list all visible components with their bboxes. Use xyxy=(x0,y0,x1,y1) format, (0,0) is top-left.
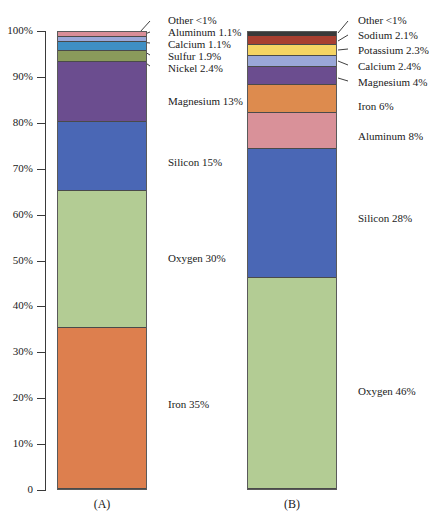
bar-segment-iron xyxy=(58,328,146,489)
segment-annotation: Aluminum 8% xyxy=(358,131,423,142)
y-axis-tick-label: 90% xyxy=(13,71,33,82)
bar-segment-sodium xyxy=(248,36,336,46)
segment-annotation: Calcium 1.1% xyxy=(168,39,231,50)
y-axis-tick-label: 60% xyxy=(13,209,33,220)
y-axis-tick-label: 20% xyxy=(13,392,33,403)
bar-segment-aluminum xyxy=(58,32,146,37)
bar-segment-sulfur xyxy=(58,42,146,51)
segment-annotation: Silicon 15% xyxy=(168,157,222,168)
bar-segment-other xyxy=(248,31,336,35)
segment-annotation: Nickel 2.4% xyxy=(168,63,223,74)
bar-segment-nickel xyxy=(58,51,146,62)
y-axis-tick xyxy=(37,169,45,170)
y-axis-tick-label: 30% xyxy=(13,346,33,357)
bar-segment-magnesium xyxy=(58,62,146,122)
y-axis-tick-label: 70% xyxy=(13,163,33,174)
y-axis-tick xyxy=(37,490,45,491)
bar-segment-silicon xyxy=(58,122,146,191)
y-axis-tick-label: 100% xyxy=(7,25,33,36)
y-axis-tick xyxy=(37,123,45,124)
segment-annotation: Magnesium 4% xyxy=(358,77,427,88)
panel-label-a: (A) xyxy=(72,497,132,512)
y-axis-tick xyxy=(37,31,45,32)
bar-segment-calcium xyxy=(58,37,146,42)
bar-segment-potassium xyxy=(248,45,336,56)
segment-annotation: Oxygen 30% xyxy=(168,253,226,264)
segment-annotation: Oxygen 46% xyxy=(358,386,416,397)
segment-annotation: Silicon 28% xyxy=(358,213,412,224)
y-axis-tick xyxy=(37,261,45,262)
y-axis-tick xyxy=(37,77,45,78)
bar-segment-aluminum xyxy=(248,113,336,150)
segment-annotation: Calcium 2.4% xyxy=(358,61,421,72)
bar-segment-calcium xyxy=(248,56,336,67)
segment-annotation: Sulfur 1.9% xyxy=(168,51,221,62)
segment-annotation: Magnesium 13% xyxy=(168,96,243,107)
y-axis-tick xyxy=(37,215,45,216)
leader-line xyxy=(338,35,348,41)
segment-annotation: Iron 35% xyxy=(168,399,209,410)
y-axis-tick-label: 80% xyxy=(13,117,33,128)
y-axis-tick-label: 40% xyxy=(13,300,33,311)
segment-annotation: Aluminum 1.1% xyxy=(168,27,241,38)
bar-segment-oxygen xyxy=(248,278,336,489)
leader-line xyxy=(338,61,348,65)
stacked-bar-a xyxy=(57,31,147,490)
bar-segment-oxygen xyxy=(58,191,146,329)
y-axis-tick xyxy=(37,444,45,445)
y-axis-tick xyxy=(37,352,45,353)
bar-segment-magnesium xyxy=(248,67,336,85)
stacked-bar-b xyxy=(247,31,337,490)
segment-annotation: Iron 6% xyxy=(358,101,394,112)
y-axis-tick xyxy=(37,306,45,307)
y-axis-tick-label: 0 xyxy=(28,484,34,495)
segment-annotation: Other <1% xyxy=(168,15,217,26)
segment-annotation: Potassium 2.3% xyxy=(358,45,429,56)
segment-annotation: Other <1% xyxy=(358,15,407,26)
panel-label-b: (B) xyxy=(262,497,322,512)
leader-line xyxy=(338,49,348,50)
y-axis-tick-label: 50% xyxy=(13,255,33,266)
bar-segment-other xyxy=(58,31,146,32)
leader-line xyxy=(338,78,348,81)
bar-segment-iron xyxy=(248,85,336,113)
leader-line xyxy=(338,21,348,33)
y-axis-tick xyxy=(37,398,45,399)
segment-annotation: Sodium 2.1% xyxy=(358,30,418,41)
y-axis-tick-label: 10% xyxy=(13,438,33,449)
bar-segment-silicon xyxy=(248,149,336,278)
y-axis-line xyxy=(45,31,46,491)
